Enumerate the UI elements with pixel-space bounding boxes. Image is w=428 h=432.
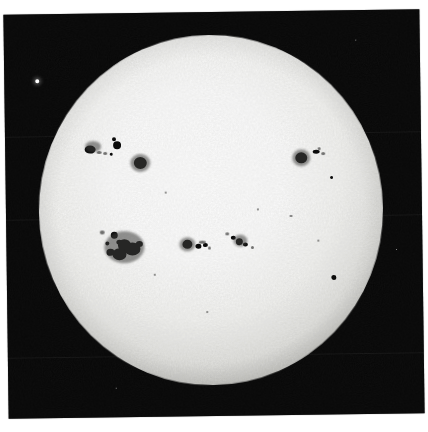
solar-photograph-page bbox=[0, 0, 428, 432]
field-speck bbox=[116, 388, 117, 389]
field-speck bbox=[396, 249, 397, 250]
sunspot bbox=[290, 215, 293, 217]
field-speck bbox=[355, 40, 356, 41]
sunspot bbox=[317, 240, 319, 242]
bright-reference-point-icon bbox=[35, 79, 39, 83]
photographic-print bbox=[3, 9, 424, 418]
sunspot bbox=[154, 274, 156, 276]
sunspot bbox=[206, 311, 208, 313]
sunspot bbox=[165, 192, 167, 194]
sunspot-layer bbox=[3, 9, 419, 14]
sunspot bbox=[257, 208, 259, 210]
field-speck bbox=[65, 213, 66, 214]
solar-disk-layer bbox=[3, 9, 424, 418]
sunspot bbox=[331, 275, 336, 280]
sunspot-group-scattered-pores bbox=[3, 9, 424, 418]
